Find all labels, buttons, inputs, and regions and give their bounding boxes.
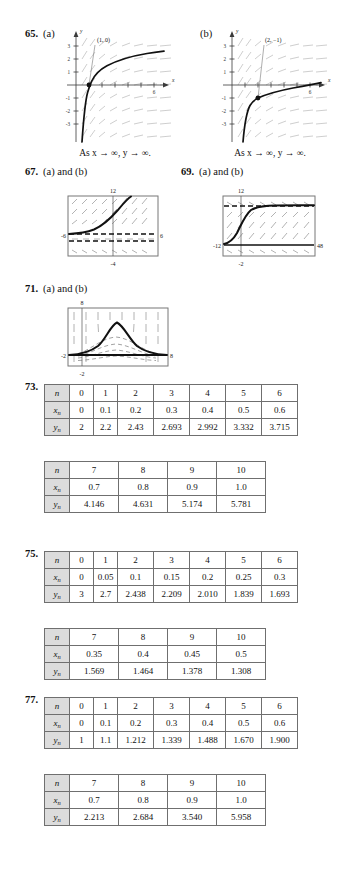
table-cell: 0 (70, 698, 94, 715)
table-cell: 1.212 (118, 732, 154, 749)
plot-71-bottom-label: -2 (80, 371, 85, 377)
table-row: xn0.70.80.91.0 (45, 792, 266, 809)
table-cell: 0.6 (262, 715, 298, 732)
plot-69: 12 -2 -12 48 (205, 184, 333, 274)
table-cell: 0 (70, 569, 94, 586)
svg-text:y: y (235, 28, 239, 34)
table-cell: 1.900 (262, 732, 298, 749)
numeric-table: n0123456xn00.10.20.30.40.50.6yn22.22.432… (44, 384, 298, 436)
table-row: xn0.350.40.450.5 (45, 646, 266, 663)
plot-69-top-label: 12 (238, 188, 244, 194)
problem-number-71: 71. (14, 283, 38, 294)
marked-point-65b (256, 96, 261, 101)
plot-67-right-label: 6 (160, 233, 163, 239)
plot-67: 12 -4 -6 6 (52, 184, 172, 274)
table-cell: 0.5 (226, 402, 262, 419)
table-cell: 0.3 (262, 569, 298, 586)
table-cell: 0.1 (118, 569, 154, 586)
problem-65-part-a-label: (a) (43, 28, 55, 39)
plot-67-top-label: 12 (110, 188, 116, 194)
row-header-x: xn (45, 402, 70, 419)
svg-text:3: 3 (67, 43, 70, 49)
table-cell: 0.9 (168, 479, 217, 496)
table-row: xn00.10.20.30.40.50.6 (45, 715, 298, 732)
table-cell: 0.05 (94, 569, 118, 586)
table-cell: 2.684 (119, 809, 168, 826)
table-cell: 0.8 (119, 792, 168, 809)
table-cell: 1.670 (226, 732, 262, 749)
row-header-n: n (45, 698, 70, 715)
table-cell: 1.1 (94, 732, 118, 749)
table-cell: 4 (190, 698, 226, 715)
table-cell: 0.8 (119, 479, 168, 496)
svg-text:-3: -3 (66, 121, 71, 127)
table-cell: 2.438 (118, 586, 154, 603)
table-cell: 10 (217, 629, 266, 646)
table-cell: 0.7 (70, 792, 119, 809)
table-73-part2: n78910xn0.70.80.91.0yn4.1464.6315.1745.7… (44, 461, 266, 513)
table-cell: 0.5 (217, 646, 266, 663)
table-73-part1: n0123456xn00.10.20.30.40.50.6yn22.22.432… (44, 384, 298, 436)
table-cell: 2.693 (154, 419, 190, 436)
slope-field-65a (82, 38, 171, 137)
plot-65b: 3 2 1 -1 -2 -3 6 y x (2, −1) (218, 24, 333, 144)
table-cell: 3.715 (262, 419, 298, 436)
row-header-y: yn (45, 419, 70, 436)
table-row: xn00.10.20.30.40.50.6 (45, 402, 298, 419)
table-cell: 5 (226, 552, 262, 569)
table-row: yn22.22.432.6932.9923.3323.715 (45, 419, 298, 436)
table-cell: 6 (262, 385, 298, 402)
table-cell: 0.4 (190, 402, 226, 419)
row-header-x: xn (45, 792, 70, 809)
row-header-x: xn (45, 646, 70, 663)
numeric-table: n78910xn0.70.80.91.0yn2.2132.6843.5405.9… (44, 774, 266, 826)
table-cell: 4 (190, 385, 226, 402)
table-77-part2: n78910xn0.70.80.91.0yn2.2132.6843.5405.9… (44, 774, 266, 826)
svg-text:-2: -2 (222, 108, 227, 114)
table-cell: 0.4 (119, 646, 168, 663)
row-header-x: xn (45, 715, 70, 732)
solution-curve-65a (82, 51, 164, 142)
table-cell: 3.332 (226, 419, 262, 436)
table-cell: 0.2 (118, 402, 154, 419)
table-cell: 0.3 (154, 715, 190, 732)
table-cell: 0.1 (94, 715, 118, 732)
table-cell: 10 (217, 462, 266, 479)
table-row: n0123456 (45, 552, 298, 569)
annotation-label-65b: (2, −1) (265, 37, 281, 44)
table-cell: 8 (119, 629, 168, 646)
table-cell: 2.43 (118, 419, 154, 436)
svg-text:1: 1 (223, 69, 226, 75)
table-cell: 3 (154, 552, 190, 569)
table-cell: 0.15 (154, 569, 190, 586)
plot-69-left-label: -12 (213, 243, 221, 249)
table-cell: 4.146 (70, 496, 119, 513)
table-cell: 3 (154, 385, 190, 402)
table-cell: 9 (168, 775, 217, 792)
svg-text:1: 1 (67, 69, 70, 75)
problem-67-label: (a) and (b) (43, 166, 87, 177)
table-cell: 2.7 (94, 586, 118, 603)
table-cell: 1.569 (70, 663, 119, 680)
table-cell: 1 (94, 552, 118, 569)
problem-number-77: 77. (14, 694, 38, 705)
table-cell: 1.693 (262, 586, 298, 603)
annotation-label-65a: (1, 0) (97, 37, 110, 44)
table-cell: 6 (262, 698, 298, 715)
table-75-part2: n78910xn0.350.40.450.5yn1.5691.4641.3781… (44, 628, 266, 680)
numeric-table: n78910xn0.70.80.91.0yn4.1464.6315.1745.7… (44, 461, 266, 513)
table-cell: 1.378 (168, 663, 217, 680)
plot-71: 8 -2 -2 8 (52, 298, 192, 378)
table-row: n78910 (45, 775, 266, 792)
table-cell: 0.1 (94, 402, 118, 419)
svg-text:-2: -2 (66, 108, 71, 114)
table-cell: 4 (190, 552, 226, 569)
table-cell: 0.25 (226, 569, 262, 586)
table-cell: 1.308 (217, 663, 266, 680)
table-cell: 5 (226, 698, 262, 715)
svg-text:x: x (171, 77, 175, 83)
table-cell: 0.2 (190, 569, 226, 586)
table-cell: 9 (168, 629, 217, 646)
table-cell: 1 (94, 385, 118, 402)
table-cell: 2.010 (190, 586, 226, 603)
